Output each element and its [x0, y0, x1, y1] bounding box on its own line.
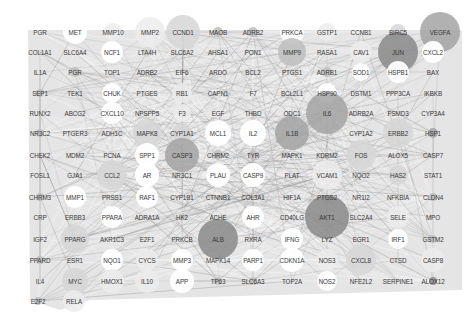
- node-label[interactable]: PSMD3: [387, 110, 408, 117]
- node-label[interactable]: PCNA: [103, 152, 120, 159]
- node-label[interactable]: CLDN4: [423, 194, 443, 201]
- node-label[interactable]: ACHE: [209, 214, 226, 221]
- node-label[interactable]: MAPK1: [282, 152, 303, 159]
- node-label[interactable]: PRSS1: [102, 194, 122, 201]
- node-label[interactable]: ADRB2: [243, 29, 264, 36]
- node-label[interactable]: CASP3: [172, 152, 192, 159]
- node-label[interactable]: TOP2A: [282, 278, 302, 285]
- node-label[interactable]: TYR: [247, 152, 259, 159]
- node-label[interactable]: CHRM2: [207, 152, 229, 159]
- node-label[interactable]: PLAT: [285, 172, 300, 179]
- node-label[interactable]: NFKBIA: [387, 194, 409, 201]
- node-label[interactable]: IKBKB: [424, 90, 442, 97]
- node-label[interactable]: CHUK: [103, 90, 120, 97]
- node-label[interactable]: F3: [178, 110, 185, 117]
- node-label[interactable]: PPARA: [102, 214, 122, 221]
- node-label[interactable]: NOS2: [319, 278, 336, 285]
- node-label[interactable]: BCL2L1: [281, 90, 303, 97]
- node-label[interactable]: MMP3: [173, 257, 191, 264]
- node-label[interactable]: FOS: [355, 152, 368, 159]
- node-label[interactable]: CAPN1: [208, 90, 229, 97]
- node-label[interactable]: IGF2: [33, 236, 47, 243]
- node-label[interactable]: HSP1: [425, 130, 441, 137]
- node-label[interactable]: PON1: [245, 49, 262, 56]
- node-label[interactable]: E2F2: [31, 298, 46, 305]
- node-label[interactable]: PTGES: [137, 90, 158, 97]
- node-label[interactable]: MDM2: [66, 152, 84, 159]
- node-label[interactable]: VCAM1: [316, 172, 337, 179]
- node-label[interactable]: PTGER3: [63, 130, 88, 137]
- node-label[interactable]: PRKCB: [171, 236, 192, 243]
- node-label[interactable]: SLC2A4: [350, 214, 373, 221]
- node-label[interactable]: CASP8: [423, 257, 443, 264]
- node-label[interactable]: MCL1: [210, 130, 226, 137]
- node-label[interactable]: MAOB: [209, 29, 227, 36]
- node-label[interactable]: JUN: [392, 49, 404, 56]
- node-label[interactable]: CYP1B1: [170, 194, 194, 201]
- node-label[interactable]: ADH1C: [102, 130, 123, 137]
- node-label[interactable]: CASP9: [243, 172, 263, 179]
- node-label[interactable]: TEK1: [67, 90, 82, 97]
- node-label[interactable]: ABCG2: [65, 110, 86, 117]
- node-label[interactable]: AHSA1: [208, 49, 228, 56]
- node-label[interactable]: COL3A1: [241, 194, 265, 201]
- node-label[interactable]: PPARG: [64, 236, 85, 243]
- node-label[interactable]: GJA1: [67, 172, 82, 179]
- node-label[interactable]: NR3C2: [30, 130, 50, 137]
- node-label[interactable]: SPP1: [139, 152, 155, 159]
- node-label[interactable]: RASA1: [317, 49, 337, 56]
- node-label[interactable]: APP: [176, 278, 188, 285]
- node-label[interactable]: HK2: [176, 214, 188, 221]
- node-label[interactable]: PGR: [68, 69, 81, 76]
- node-label[interactable]: CHEK2: [30, 152, 51, 159]
- node-label[interactable]: HSPB1: [388, 69, 408, 76]
- node-label[interactable]: TOP1: [104, 69, 120, 76]
- node-label[interactable]: ERBB3: [65, 214, 85, 221]
- node-label[interactable]: ARDO: [209, 69, 227, 76]
- node-label[interactable]: NQO1: [103, 257, 120, 264]
- node-label[interactable]: CTSD: [390, 257, 407, 264]
- node-label[interactable]: STAT1: [424, 172, 442, 179]
- node-label[interactable]: AKR1C3: [100, 236, 124, 243]
- node-label[interactable]: MPO: [426, 214, 440, 221]
- node-label[interactable]: SEP1: [32, 90, 48, 97]
- node-label[interactable]: CHRM3: [29, 194, 51, 201]
- node-label[interactable]: NQO2: [352, 172, 369, 179]
- node-label[interactable]: AHR: [247, 214, 260, 221]
- node-label[interactable]: COL1A1: [28, 49, 52, 56]
- node-label[interactable]: ESR1: [67, 257, 83, 264]
- node-label[interactable]: CAV1: [353, 49, 369, 56]
- node-label[interactable]: EIF6: [176, 69, 189, 76]
- node-label[interactable]: LTA4H: [138, 49, 156, 56]
- node-label[interactable]: AKT1: [319, 214, 334, 221]
- node-label[interactable]: ADRB1: [317, 69, 338, 76]
- node-label[interactable]: DSTM1: [351, 90, 372, 97]
- node-label[interactable]: CASP7: [423, 152, 443, 159]
- node-label[interactable]: ALOX12: [421, 278, 444, 285]
- node-label[interactable]: RXRA: [244, 236, 261, 243]
- node-label[interactable]: E2F1: [140, 236, 155, 243]
- node-label[interactable]: CCL2: [104, 172, 120, 179]
- node-label[interactable]: FOSL1: [30, 172, 49, 179]
- node-label[interactable]: GSTP1: [317, 29, 337, 36]
- node-label[interactable]: PARP1: [243, 257, 263, 264]
- node-label[interactable]: ODC1: [283, 110, 300, 117]
- node-label[interactable]: CYCS: [138, 257, 155, 264]
- node-label[interactable]: BCL2: [245, 69, 260, 76]
- node-label[interactable]: SELE: [390, 214, 406, 221]
- node-label[interactable]: NOS3: [319, 257, 336, 264]
- node-label[interactable]: MAPK8: [137, 130, 158, 137]
- node-label[interactable]: GSTM2: [422, 236, 443, 243]
- node-label[interactable]: LYZ: [322, 236, 333, 243]
- node-label[interactable]: KDRM2: [316, 152, 338, 159]
- node-label[interactable]: CXCL10: [100, 110, 123, 117]
- node-label[interactable]: NCF1: [104, 49, 120, 56]
- node-label[interactable]: CDKN1A: [280, 257, 305, 264]
- node-label[interactable]: IFNG: [285, 236, 300, 243]
- node-label[interactable]: RAF1: [139, 194, 155, 201]
- node-label[interactable]: HIF1A: [283, 194, 300, 201]
- node-label[interactable]: ADRB2: [137, 69, 158, 76]
- node-label[interactable]: ALOX5: [388, 152, 408, 159]
- node-label[interactable]: NR1I2: [352, 194, 369, 201]
- node-label[interactable]: EGR1: [353, 236, 370, 243]
